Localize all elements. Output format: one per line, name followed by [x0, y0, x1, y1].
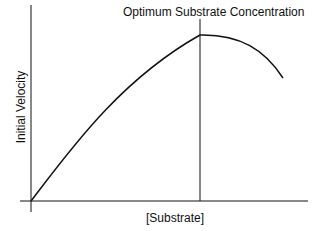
- y-axis-label: Initial Velocity: [14, 62, 28, 152]
- chart-canvas: [0, 0, 314, 231]
- optimum-label: Optimum Substrate Concentration: [123, 5, 304, 19]
- x-axis-label: [Substrate]: [146, 211, 204, 225]
- velocity-curve: [31, 35, 283, 201]
